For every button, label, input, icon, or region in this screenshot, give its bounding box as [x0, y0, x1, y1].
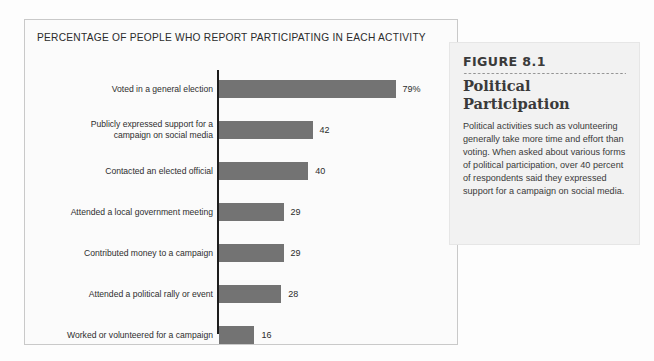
bar-category-label-line1: Contributed money to a campaign — [37, 248, 213, 259]
bar-category-label-line1: Attended a political rally or event — [37, 289, 213, 300]
figure-caption-text: Political activities such as volunteerin… — [463, 120, 626, 199]
figure-title-line1: Political — [463, 77, 626, 95]
bar-track: 29 — [219, 203, 301, 221]
bar-fill — [219, 121, 313, 139]
bar-track: 16 — [219, 326, 272, 344]
bar-fill — [219, 285, 282, 303]
bar-category-label: Voted in a general election — [37, 84, 213, 95]
bar-category-label-line1: Voted in a general election — [37, 84, 213, 95]
bar-value-label: 29 — [291, 248, 301, 258]
figure-title: Political Participation — [463, 77, 626, 112]
bar-row: Worked or volunteered for a campaign 16 — [25, 316, 459, 354]
bar-track: 42 — [219, 121, 330, 139]
bar-value-label: 28 — [288, 289, 298, 299]
figure-caption-box: FIGURE 8.1 Political Participation Polit… — [449, 42, 640, 245]
bar-track: 29 — [219, 244, 301, 262]
bar-row: Publicly expressed support for a campaig… — [25, 111, 459, 149]
figure-number: FIGURE 8.1 — [463, 55, 626, 69]
bar-fill — [219, 326, 255, 344]
bar-track: 40 — [219, 162, 326, 180]
chart-panel: PERCENTAGE OF PEOPLE WHO REPORT PARTICIP… — [24, 19, 458, 345]
bar-track: 28 — [219, 285, 299, 303]
bar-category-label-line1: Contacted an elected official — [37, 166, 213, 177]
bar-category-label: Worked or volunteered for a campaign — [37, 330, 213, 341]
bar-category-label: Publicly expressed support for a campaig… — [37, 119, 213, 140]
bar-fill — [219, 162, 309, 180]
bar-fill — [219, 244, 284, 262]
bar-fill — [219, 203, 284, 221]
dotted-rule-divider — [463, 71, 626, 74]
bar-value-label: 40 — [315, 166, 325, 176]
bar-row: Voted in a general election 79% — [25, 70, 459, 108]
bar-category-label: Contributed money to a campaign — [37, 248, 213, 259]
figure-page: PERCENTAGE OF PEOPLE WHO REPORT PARTICIP… — [0, 0, 654, 361]
bar-value-label: 42 — [320, 125, 330, 135]
bar-row: Attended a political rally or event 28 — [25, 275, 459, 313]
bar-row: Contributed money to a campaign 29 — [25, 234, 459, 272]
chart-title: PERCENTAGE OF PEOPLE WHO REPORT PARTICIP… — [37, 32, 426, 43]
bar-category-label-line1: Publicly expressed support for a — [37, 119, 213, 130]
bar-value-label: 16 — [261, 330, 271, 340]
bar-category-label: Attended a political rally or event — [37, 289, 213, 300]
bar-fill — [219, 80, 396, 98]
figure-title-line2: Participation — [463, 95, 626, 113]
bar-value-label: 79% — [403, 84, 421, 94]
bar-value-label: 29 — [291, 207, 301, 217]
bar-category-label: Attended a local government meeting — [37, 207, 213, 218]
bar-chart-plot-area: Voted in a general election 79% Publicly… — [25, 56, 459, 344]
bar-category-label: Contacted an elected official — [37, 166, 213, 177]
bar-category-label-line2: campaign on social media — [37, 130, 213, 141]
bar-category-label-line1: Attended a local government meeting — [37, 207, 213, 218]
bar-row: Attended a local government meeting 29 — [25, 193, 459, 231]
bar-category-label-line1: Worked or volunteered for a campaign — [37, 330, 213, 341]
bar-row: Contacted an elected official 40 — [25, 152, 459, 190]
bar-track: 79% — [219, 80, 421, 98]
